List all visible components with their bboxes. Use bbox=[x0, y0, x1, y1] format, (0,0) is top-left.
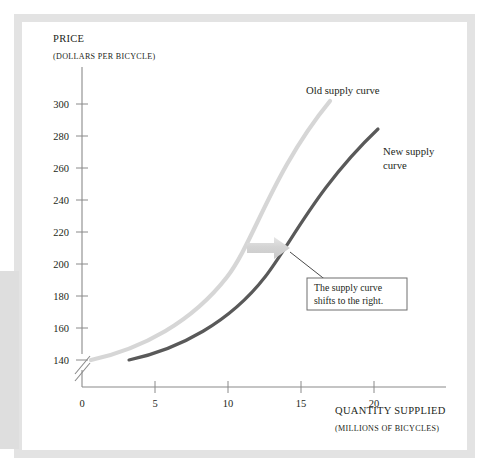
y-tick-label-200: 200 bbox=[53, 259, 69, 270]
old-supply-curve-label: Old supply curve bbox=[306, 84, 380, 96]
x-tick-label-20: 20 bbox=[369, 398, 380, 409]
x-tick-label-10: 10 bbox=[223, 398, 234, 409]
x-axis-subtitle: (MILLIONS OF BICYCLES) bbox=[335, 424, 439, 433]
y-tick-label-180: 180 bbox=[53, 291, 69, 302]
y-tick-label-160: 160 bbox=[53, 323, 69, 334]
y-axis-title: PRICE bbox=[53, 33, 84, 44]
new-supply-curve-label-line1: New supply bbox=[383, 145, 435, 157]
x-axis-title: QUANTITY SUPPLIED bbox=[335, 405, 446, 416]
y-tick-label-140: 140 bbox=[53, 355, 69, 366]
callout-text-line2: shifts to the right. bbox=[314, 295, 383, 306]
callout-text-line1: The supply curve bbox=[314, 282, 383, 293]
figure-root: PRICE (DOLLARS PER BICYCLE) QUANTITY SUP… bbox=[0, 0, 484, 472]
y-tick-label-260: 260 bbox=[53, 163, 69, 174]
y-tick-label-240: 240 bbox=[53, 195, 69, 206]
callout-leader-line bbox=[290, 252, 327, 281]
x-tick-label-5: 5 bbox=[152, 398, 157, 409]
y-axis-subtitle: (DOLLARS PER BICYCLE) bbox=[53, 52, 156, 61]
y-tick-label-280: 280 bbox=[53, 131, 69, 142]
y-tick-label-300: 300 bbox=[53, 99, 69, 110]
x-tick-label-0: 0 bbox=[79, 398, 84, 409]
page-side-tab bbox=[0, 271, 19, 449]
old-supply-curve bbox=[91, 101, 330, 360]
new-supply-curve-label-line2: curve bbox=[383, 159, 407, 171]
supply-curve-chart: PRICE (DOLLARS PER BICYCLE) QUANTITY SUP… bbox=[22, 22, 467, 450]
shift-arrow-icon bbox=[247, 237, 290, 259]
y-tick-label-220: 220 bbox=[53, 227, 69, 238]
x-tick-label-15: 15 bbox=[296, 398, 307, 409]
